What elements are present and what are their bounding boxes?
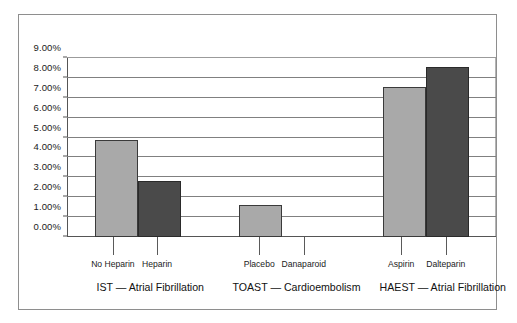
y-axis-tick-label: 1.00% [34,201,61,212]
plot-right-edge [495,58,496,236]
chart-figure-frame: 0.00%1.00%2.00%3.00%4.00%5.00%6.00%7.00%… [18,14,497,310]
y-axis-tick-label: 0.00% [34,221,61,232]
x-axis-tick-mark [401,237,402,255]
group-label-1: TOAST — Cardioembolism [233,281,361,293]
gridline [67,57,496,58]
plot-wrapper: 0.00%1.00%2.00%3.00%4.00%5.00%6.00%7.00%… [67,58,496,237]
bar-heparin [138,181,181,237]
y-axis-tick-mark [63,216,67,217]
y-axis-tick-mark [63,156,67,157]
bar-dalteparin [426,67,469,237]
x-axis-label-danaparoid: Danaparoid [282,259,326,269]
y-axis-tick-mark [63,96,67,97]
x-axis-tick-mark [446,237,447,255]
x-axis-label-heparin: Heparin [142,259,172,269]
y-axis-tick-mark [63,176,67,177]
x-axis-tick-mark [157,237,158,255]
bar-placebo [239,205,282,237]
y-axis-tick-mark [63,236,67,237]
y-axis-tick-label: 7.00% [34,81,61,92]
y-axis-tick-label: 3.00% [34,161,61,172]
y-axis-tick-mark [63,136,67,137]
x-axis-tick-mark [259,237,260,255]
y-axis-tick-label: 2.00% [34,181,61,192]
y-axis-tick-mark [63,57,67,58]
y-axis-tick-label: 5.00% [34,121,61,132]
x-axis-label-dalteparin: Dalteparin [426,259,465,269]
x-axis-label-no-heparin: No Heparin [91,259,134,269]
y-axis-tick-label: 9.00% [34,42,61,53]
y-axis-tick-mark [63,76,67,77]
x-axis-label-aspirin: Aspirin [388,259,414,269]
y-axis-tick-mark [63,196,67,197]
y-axis-tick-mark [63,116,67,117]
bar-no-heparin [95,140,138,237]
x-axis-tick-mark [113,237,114,255]
group-label-0: IST — Atrial Fibrillation [96,281,204,293]
y-axis-tick-label: 8.00% [34,61,61,72]
x-axis-label-placebo: Placebo [244,259,275,269]
y-axis-tick-label: 4.00% [34,141,61,152]
group-label-2: HAEST — Atrial Fibrillation [380,281,506,293]
x-axis-tick-mark [304,237,305,255]
y-axis-tick-label: 6.00% [34,101,61,112]
bar-aspirin [383,87,426,237]
